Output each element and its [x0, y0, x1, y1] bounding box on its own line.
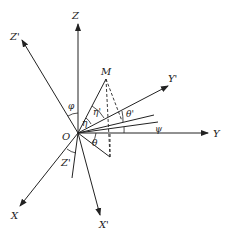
x-label: X	[10, 210, 19, 221]
phi-label: φ	[68, 101, 75, 111]
y-label: Y	[213, 128, 221, 139]
point-m-label: M	[100, 66, 112, 77]
x-prime-label: X'	[98, 219, 109, 230]
theta-prime-arc	[122, 111, 123, 122]
z-prime-label: Z'	[9, 31, 20, 42]
psi-label: ψ	[155, 124, 163, 134]
x-axis	[20, 133, 78, 206]
z-prime-axis	[22, 40, 78, 133]
theta-prime-label: θ'	[126, 109, 134, 119]
diagram-canvas: Z Z' Y Y' X X' Z' O M φ η η' θ' θ ψ	[0, 0, 232, 236]
z-prime-lower-label: Z'	[60, 157, 71, 168]
z-prime-lower-arc	[67, 149, 76, 153]
eta-prime-label: η'	[93, 107, 101, 117]
z-label: Z	[71, 10, 80, 21]
phi-arc	[68, 113, 78, 116]
theta-label: θ	[92, 138, 98, 148]
eta-label: η	[82, 118, 88, 128]
y-prime-label: Y'	[168, 73, 177, 84]
origin-label: O	[62, 131, 70, 142]
